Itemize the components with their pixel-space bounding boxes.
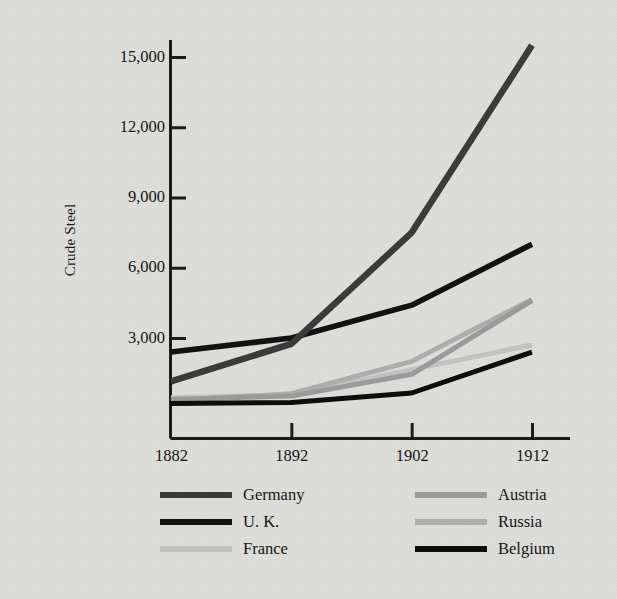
chart-figure: Crude Steel 3,0006,0009,00012,00015,000 … <box>0 0 617 599</box>
legend-swatch-icon <box>160 519 232 525</box>
y-tick-label: 3,000 <box>79 328 165 348</box>
legend-swatch-icon <box>415 492 487 498</box>
x-tick-label: 1902 <box>377 446 447 466</box>
y-axis-label-text: Crude Steel <box>62 204 79 277</box>
legend-item[interactable]: U. K. <box>160 509 350 535</box>
x-tick-label: 1892 <box>257 446 327 466</box>
legend-item[interactable]: Belgium <box>415 536 605 562</box>
legend-item-label: France <box>243 541 288 558</box>
data-series-group <box>171 45 532 403</box>
legend-item[interactable]: Austria <box>415 482 605 508</box>
legend-column-left: GermanyU. K.France <box>160 482 350 563</box>
series-line-austria <box>171 301 532 400</box>
legend-item-label: Belgium <box>498 541 555 558</box>
y-tick-label: 15,000 <box>79 47 165 67</box>
legend-column-right: AustriaRussiaBelgium <box>415 482 605 563</box>
legend-item[interactable]: Russia <box>415 509 605 535</box>
legend-swatch-icon <box>415 546 487 552</box>
y-tick-label: 9,000 <box>79 187 165 207</box>
legend-swatch-icon <box>415 519 487 525</box>
legend-swatch-icon <box>160 492 232 498</box>
legend-swatch-icon <box>160 546 232 552</box>
chart-legend: GermanyU. K.France AustriaRussiaBelgium <box>160 482 560 572</box>
legend-item[interactable]: France <box>160 536 350 562</box>
y-tick-label: 12,000 <box>79 117 165 137</box>
legend-item-label: Germany <box>243 487 304 504</box>
legend-item-label: Austria <box>498 487 547 504</box>
legend-item[interactable]: Germany <box>160 482 350 508</box>
x-axis-ticks <box>292 423 533 439</box>
x-tick-label: 1882 <box>137 446 207 466</box>
y-axis-ticks <box>171 58 186 339</box>
x-tick-label: 1912 <box>498 446 568 466</box>
legend-item-label: Russia <box>498 514 542 531</box>
y-tick-label: 6,000 <box>79 257 165 277</box>
legend-item-label: U. K. <box>243 514 279 531</box>
